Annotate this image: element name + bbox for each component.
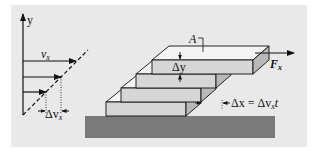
plate-4 (152, 46, 269, 74)
shear-flow-diagram: y vx Δvx (0, 0, 315, 152)
base-block (85, 116, 275, 138)
area-label: A (188, 32, 197, 46)
thickness-label: Δy (172, 60, 186, 74)
y-axis-label: y (27, 13, 33, 27)
